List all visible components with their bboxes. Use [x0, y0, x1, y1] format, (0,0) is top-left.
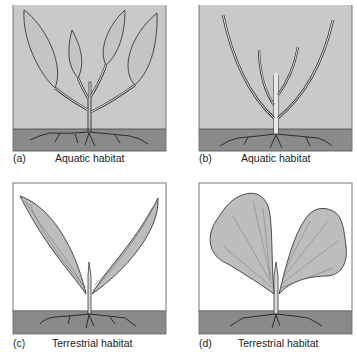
panel-letter: (d) — [199, 337, 212, 349]
panel-caption: Terrestrial habitat — [238, 337, 319, 349]
panel-letter: (c) — [13, 337, 25, 349]
panel-b: (b) Aquatic habitat — [178, 0, 357, 176]
panel-caption: Terrestrial habitat — [52, 337, 133, 349]
aquatic-plant-linear-leaves-illustration — [178, 0, 357, 176]
panel-a: (a) Aquatic habitat — [0, 0, 178, 176]
panel-letter: (a) — [13, 152, 26, 164]
panel-caption: Aquatic habitat — [241, 152, 310, 164]
terrestrial-plant-fan-leaves-illustration — [178, 176, 357, 352]
panel-c: (c) Terrestrial habitat — [0, 176, 178, 352]
panel-caption: Aquatic habitat — [55, 152, 124, 164]
panel-letter: (b) — [199, 152, 212, 164]
panel-d: (d) Terrestrial habitat — [178, 176, 357, 352]
aquatic-plant-broad-leaves-illustration — [0, 0, 178, 176]
terrestrial-plant-lanceolate-leaves-illustration — [0, 176, 178, 352]
